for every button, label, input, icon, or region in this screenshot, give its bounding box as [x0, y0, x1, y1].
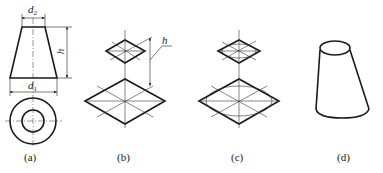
panel-d-cone	[316, 41, 369, 118]
caption-b: (b)	[117, 152, 130, 163]
h-label-a: h	[55, 49, 66, 55]
truncated-cone-isometric-figure: d2 h d1 h (a) (b) (c) (d)	[0, 0, 383, 173]
caption-c: (c)	[231, 152, 243, 163]
caption-d: (d)	[337, 152, 350, 163]
caption-a: (a)	[24, 152, 36, 163]
d1-label: d1	[28, 80, 37, 93]
panel-a-top-view	[5, 96, 62, 147]
d2-label: d2	[28, 4, 37, 17]
panel-a-front-view	[10, 14, 72, 96]
panel-b-rhombuses	[85, 30, 172, 128]
h-label-b: h	[162, 35, 168, 46]
figure-drawing	[0, 0, 383, 173]
panel-c-ellipses	[199, 30, 279, 128]
